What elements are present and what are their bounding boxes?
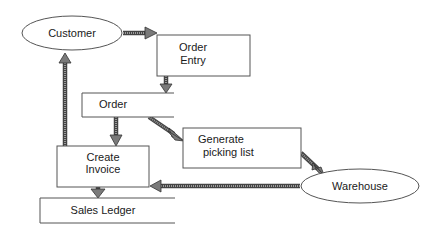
arrow-create-invoice-to-customer xyxy=(59,53,71,146)
arrow-order-to-create-invoice xyxy=(110,117,122,146)
data-flow-diagram: Customer Order Entry Order Generate pick… xyxy=(0,0,438,235)
create-invoice-process[interactable]: Create Invoice xyxy=(57,146,149,187)
picking-list-label-line2: picking list xyxy=(203,146,254,158)
order-entry-process[interactable]: Order Entry xyxy=(157,35,250,76)
customer-entity[interactable]: Customer xyxy=(22,16,122,50)
order-entry-label-line1: Order xyxy=(179,41,207,53)
arrow-warehouse-to-create-invoice xyxy=(150,180,300,192)
customer-label: Customer xyxy=(48,27,96,39)
arrow-picking-list-to-warehouse xyxy=(301,153,325,176)
order-data-store[interactable]: Order xyxy=(82,93,174,117)
arrow-create-invoice-to-sales-ledger xyxy=(91,187,105,198)
arrow-order-to-picking-list xyxy=(149,117,184,141)
arrow-customer-to-order-entry xyxy=(123,27,157,39)
order-entry-label-line2: Entry xyxy=(180,54,206,66)
generate-picking-list-process[interactable]: Generate picking list xyxy=(183,128,301,168)
create-invoice-label-line2: Invoice xyxy=(86,163,121,175)
picking-list-label-line1: Generate xyxy=(198,133,244,145)
arrow-order-entry-to-order xyxy=(160,76,172,93)
order-store-label: Order xyxy=(99,98,127,110)
warehouse-label: Warehouse xyxy=(332,180,388,192)
sales-ledger-data-store[interactable]: Sales Ledger xyxy=(40,198,175,223)
warehouse-entity[interactable]: Warehouse xyxy=(301,169,419,203)
sales-ledger-label: Sales Ledger xyxy=(71,204,136,216)
create-invoice-label-line1: Create xyxy=(86,151,119,163)
